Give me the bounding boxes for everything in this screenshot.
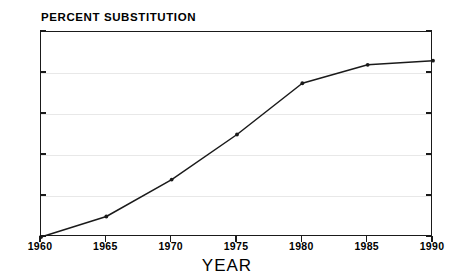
y-axis-tick-right: [426, 153, 432, 155]
y-axis-tick: [40, 235, 46, 237]
plot-area: [40, 31, 432, 236]
y-axis-tick: [40, 153, 46, 155]
data-point-marker: [366, 63, 370, 67]
data-point-marker: [300, 81, 304, 85]
y-axis-tick: [40, 71, 46, 73]
chart-title: PERCENT SUBSTITUTION: [41, 10, 196, 24]
line-chart-figure: PERCENT SUBSTITUTION 020406080100 196019…: [0, 0, 454, 279]
data-point-marker: [170, 178, 174, 182]
series-polyline: [41, 61, 433, 237]
y-axis-tick-right: [426, 30, 432, 32]
x-axis-tick-label: 1960: [10, 240, 70, 252]
data-point-marker: [235, 133, 239, 137]
x-axis-title: YEAR: [0, 256, 454, 275]
x-axis-tick-label: 1970: [141, 240, 201, 252]
y-axis-tick: [40, 30, 46, 32]
data-point-marker: [104, 215, 108, 219]
x-axis-tick-label: 1975: [206, 240, 266, 252]
y-axis-tick: [40, 112, 46, 114]
x-axis-tick-label: 1990: [402, 240, 454, 252]
y-axis-tick-right: [426, 194, 432, 196]
series-markers: [39, 59, 435, 239]
x-axis-tick-label: 1985: [337, 240, 397, 252]
y-axis-tick-right: [426, 112, 432, 114]
x-axis-tick-label: 1980: [271, 240, 331, 252]
x-axis-tick-label: 1965: [75, 240, 135, 252]
data-point-marker: [431, 59, 435, 63]
y-axis-tick-right: [426, 71, 432, 73]
data-series-line: [41, 32, 433, 237]
y-axis-tick: [40, 194, 46, 196]
